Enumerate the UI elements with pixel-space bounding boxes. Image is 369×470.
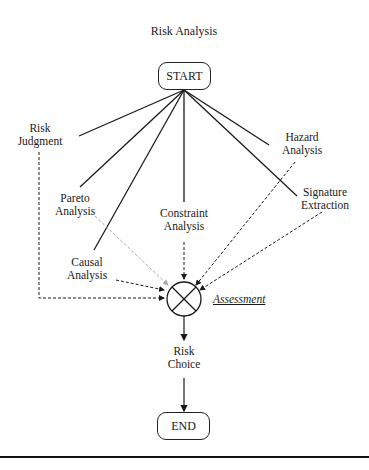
label-line: Extraction <box>301 199 349 212</box>
label-line: Analysis <box>160 220 208 233</box>
label-line: Analysis <box>282 144 322 157</box>
label-line: Choice <box>168 358 201 371</box>
label-line: Signature <box>301 186 349 199</box>
label-line: Pareto <box>55 192 95 205</box>
node-signature-extraction: Signature Extraction <box>301 186 349 212</box>
node-pareto-analysis: Pareto Analysis <box>55 192 95 218</box>
node-risk-choice: Risk Choice <box>168 345 201 371</box>
label-line: Judgment <box>18 135 63 148</box>
end-node: END <box>157 412 210 440</box>
node-constraint-analysis: Constraint Analysis <box>160 207 208 233</box>
node-causal-analysis: Causal Analysis <box>67 256 107 282</box>
label-line: Causal <box>67 256 107 269</box>
node-hazard-analysis: Hazard Analysis <box>282 131 322 157</box>
label-line: Hazard <box>282 131 322 144</box>
assessment-label: Assessment <box>213 293 265 305</box>
node-risk-judgment: Risk Judgment <box>18 122 63 148</box>
label-line: Constraint <box>160 207 208 220</box>
label-line: Risk <box>168 345 201 358</box>
label-line: Analysis <box>67 269 107 282</box>
start-node: START <box>158 62 211 90</box>
label-line: Risk <box>18 122 63 135</box>
assessment-node <box>167 282 201 316</box>
bottom-rule <box>0 456 369 458</box>
label-line: Analysis <box>55 205 95 218</box>
